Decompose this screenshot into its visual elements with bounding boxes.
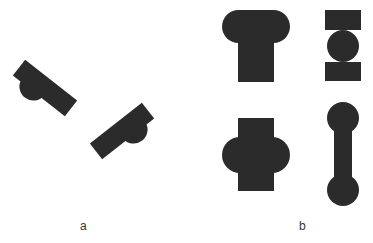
panel-b-label: b	[299, 219, 306, 233]
panel-a-shape-2	[90, 103, 160, 167]
panel-b-bead-shape	[325, 10, 361, 81]
figure-canvas	[0, 0, 373, 243]
panel-b-t-shape	[222, 10, 290, 82]
panel-a-label: a	[80, 219, 87, 233]
panel-a-shape-1	[7, 60, 77, 124]
panel-b-dumbbell-shape	[327, 102, 359, 206]
panel-b-cross-shape	[222, 118, 290, 191]
